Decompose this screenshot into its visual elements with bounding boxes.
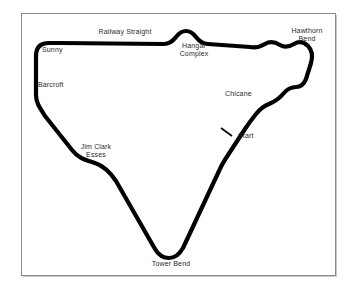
- label-chicane: Chicane: [225, 90, 257, 98]
- label-railway-straight: Railway Straight: [89, 28, 161, 36]
- label-start: Start: [238, 132, 260, 140]
- circuit-map: Railway Straight Hangar Complex Hawthorn…: [0, 0, 357, 292]
- label-sunny: Sunny: [42, 46, 72, 54]
- label-hawthorn-bend: Hawthorn Bend: [287, 27, 327, 44]
- label-hangar-complex: Hangar Complex: [173, 42, 215, 59]
- label-tower-bend: Tower Bend: [145, 260, 197, 268]
- label-jim-clark-esses: Jim Clark Esses: [76, 143, 116, 160]
- start-line-tick-icon: [221, 128, 232, 136]
- label-barcroft: Barcroft: [38, 81, 74, 89]
